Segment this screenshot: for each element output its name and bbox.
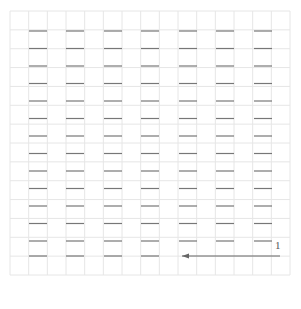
arrow-label: 1	[275, 240, 281, 251]
diagram-canvas	[0, 0, 301, 309]
arrowhead-icon	[182, 254, 189, 259]
